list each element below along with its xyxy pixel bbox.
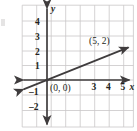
- coordinate-plane-figure: 4 3 2 1 –1 –2 3 4 5 y x (0, 0) (5, 2): [0, 0, 137, 131]
- point-5-2-label: (5, 2): [89, 37, 110, 47]
- y-tick-label-neg2: –2: [29, 103, 39, 113]
- y-axis-name-label: y: [51, 5, 55, 15]
- x-axis-name-label: x: [130, 83, 135, 93]
- y-tick-label-4: 4: [35, 18, 40, 28]
- y-tick-label-1: 1: [35, 62, 40, 72]
- y-tick-label-2: 2: [35, 48, 40, 58]
- y-tick-label-neg1: –1: [29, 88, 39, 98]
- origin-point: [45, 78, 48, 81]
- x-tick-label-5: 5: [121, 83, 126, 93]
- coordinate-plane-svg: [0, 0, 137, 131]
- x-tick-label-4: 4: [106, 83, 111, 93]
- origin-point-label: (0, 0): [50, 84, 71, 94]
- x-tick-label-3: 3: [92, 83, 97, 93]
- y-tick-label-3: 3: [35, 33, 40, 43]
